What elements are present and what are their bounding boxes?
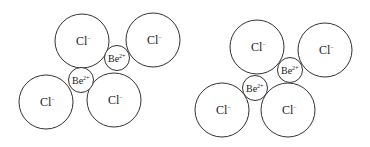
chloride-ion: Cl− [87,73,141,127]
chloride-ion: Cl− [195,83,249,137]
chloride-ion: Cl− [230,20,284,74]
chloride-ion: Cl− [261,83,315,137]
chloride-ion: Cl− [298,23,352,77]
beryllium-ion: Be2+ [69,68,94,93]
chloride-ion: Cl− [126,13,180,67]
beryllium-ion: Be2+ [243,76,268,101]
beryllium-ion: Be2+ [278,58,303,83]
left-structure: Cl−Cl−Cl−Cl−Be2+Be2+ [19,13,180,129]
chloride-ion: Cl− [55,14,109,68]
beryllium-chloride-structures: Cl−Cl−Cl−Cl−Be2+Be2+ Cl−Cl−Cl−Cl−Be2+Be2… [0,0,370,147]
beryllium-ion: Be2+ [105,46,130,71]
chloride-ion: Cl− [19,75,73,129]
right-structure: Cl−Cl−Cl−Cl−Be2+Be2+ [195,20,352,137]
